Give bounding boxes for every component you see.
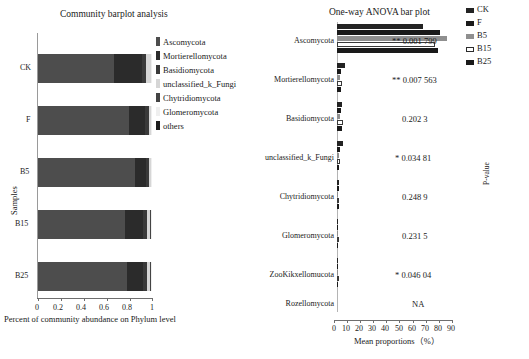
legend-label-chytridiomycota: Chytridiomycota (163, 94, 221, 103)
segment-mortierellomycota (125, 210, 143, 239)
right-x-ticklabel-40: 40 (381, 325, 389, 333)
bar-mortierellomycota-b5 (337, 75, 340, 80)
anova-barplot-panel: One-way ANOVA bar plot Ascomycota ** 0.0… (268, 0, 529, 359)
legend-label-others: others (163, 122, 184, 131)
bar-mortierellomycota-b25 (337, 87, 341, 92)
bar-unclassified-k-fungi-b15 (337, 159, 340, 164)
taxon-label-rozellomycota: Rozellomycota (268, 299, 334, 308)
bar-glomeromycota-b25 (337, 243, 338, 248)
bar-ascomycota-b25 (337, 48, 438, 53)
taxon-label-chytridiomycota: Chytridiomycota (268, 192, 334, 201)
bar-zookikxellomucota-b5 (337, 270, 338, 275)
legend-swatch-ascomycota (156, 37, 160, 46)
bar-unclassified-k-fungi-b5 (337, 153, 339, 158)
bar-glomeromycota-b15 (337, 237, 339, 242)
figure-canvas: Community barplot analysis CK F B5 B15 B… (0, 0, 529, 359)
right-x-tick-20 (360, 320, 361, 323)
bar-basidiomycota-f (337, 108, 341, 113)
bar-basidiomycota-b15 (337, 120, 343, 125)
bar-mortierellomycota-ck (337, 63, 345, 68)
segment-ascomycota (38, 210, 125, 239)
bar-zookikxellomucota-f (337, 264, 338, 269)
taxon-label-mortierellomycota: Mortierellomycota (268, 75, 334, 84)
bar-zookikxellomucota-b15 (337, 276, 339, 281)
bar-unclassified-k-fungi-f (337, 147, 340, 152)
left-panel-title: Community barplot analysis (60, 10, 168, 20)
bar-glomeromycota-f (337, 225, 338, 230)
left-x-tick-0-2 (61, 298, 62, 301)
left-x-ticklabel-0-8: 0.8 (122, 304, 132, 312)
right-x-tick-10 (347, 320, 348, 323)
bar-chytridiomycota-ck (337, 180, 339, 185)
left-x-ticklabel-0-4: 0.4 (76, 304, 86, 312)
pvalue-mortierellomycota: ** 0.007 563 (392, 75, 437, 85)
right-x-ticklabel-0: 0 (332, 325, 336, 333)
bar-mortierellomycota-b15 (337, 81, 342, 86)
legend-swatch-glomeromycota (156, 107, 160, 116)
segment-ascomycota (38, 262, 127, 291)
legend-label-basidiomycota: Basidiomycota (163, 66, 214, 75)
right-x-ticklabel-80: 80 (434, 325, 442, 333)
left-y-axis-label: Samples (10, 186, 19, 215)
bar-basidiomycota-b25 (337, 126, 342, 131)
legend-label-ck: CK (477, 5, 489, 14)
right-x-tick-90 (452, 320, 453, 323)
left-x-tick-0 (38, 298, 39, 301)
legend-swatch-chytridiomycota (156, 93, 160, 102)
right-x-tick-80 (439, 320, 440, 323)
pvalue-rozellomycota: NA (412, 299, 424, 309)
legend-label-ascomycota: Ascomycota (163, 38, 206, 47)
right-x-ticklabel-90: 90 (447, 325, 455, 333)
left-x-ticklabel-0: 0 (35, 304, 39, 312)
right-x-axis-line (334, 320, 453, 321)
right-x-tick-0 (334, 320, 335, 323)
legend-label-glomeromycota: Glomeromycota (163, 108, 218, 117)
left-x-axis-line (37, 298, 153, 299)
legend-swatch-unclassified-k-fungi (156, 79, 160, 88)
pvalue-unclassified-k-fungi: * 0.034 81 (395, 153, 431, 163)
legend-swatch-b5 (466, 34, 474, 39)
right-x-axis-label: Mean proportions（%） (354, 337, 440, 346)
right-x-tick-40 (386, 320, 387, 323)
legend-swatch-ck (466, 8, 474, 13)
pvalue-zookikxellomucota: * 0.046 04 (395, 270, 431, 280)
segment-mortierellomycota (127, 262, 144, 291)
segment-ascomycota (38, 106, 129, 135)
bar-zookikxellomucota-b25 (337, 282, 338, 287)
right-x-ticklabel-30: 30 (368, 325, 376, 333)
segment-mortierellomycota (129, 106, 146, 135)
sample-label-f: F (26, 116, 30, 124)
taxon-label-glomeromycota: Glomeromycota (268, 231, 334, 240)
pvalue-chytridiomycota: 0.248 9 (402, 192, 428, 202)
left-x-ticklabel-1: 1 (150, 304, 154, 312)
right-x-ticklabel-10: 10 (342, 325, 350, 333)
left-x-tick-0-6 (107, 298, 108, 301)
segment-mortierellomycota (114, 54, 143, 83)
left-x-tick-1 (152, 298, 153, 301)
legend-swatch-b25 (466, 60, 474, 65)
taxon-label-basidiomycota: Basidiomycota (268, 114, 334, 123)
bar-unclassified-k-fungi-ck (337, 141, 343, 146)
bar-ascomycota-f (337, 30, 440, 35)
legend-label-f: F (477, 18, 482, 27)
taxon-label-unclassified-k-fungi: unclassified_k_Fungi (262, 153, 334, 162)
right-x-tick-30 (373, 320, 374, 323)
community-barplot-panel: Community barplot analysis CK F B5 B15 B… (0, 0, 268, 359)
taxon-label-ascomycota: Ascomycota (268, 36, 334, 45)
pvalue-ascomycota: ** 0.001 799 (392, 36, 437, 46)
legend-swatch-f (466, 21, 474, 26)
sample-label-b15: B15 (15, 220, 28, 228)
right-x-tick-60 (413, 320, 414, 323)
segment-ascomycota (38, 158, 135, 187)
sample-label-ck: CK (20, 64, 31, 72)
bar-basidiomycota-ck (337, 102, 342, 107)
legend-swatch-b15 (466, 47, 474, 52)
legend-label-b25: B25 (477, 57, 491, 66)
left-x-ticklabel-0-6: 0.6 (99, 304, 109, 312)
legend-label-mortierellomycota: Mortierellomycota (163, 52, 227, 61)
pvalue-basidiomycota: 0.202 3 (402, 114, 428, 124)
legend-label-unclassified-k-fungi: unclassified_k_Fungi (163, 80, 236, 89)
bar-basidiomycota-b5 (337, 114, 340, 119)
sample-label-b5: B5 (20, 168, 29, 176)
bar-glomeromycota-ck (337, 219, 338, 224)
